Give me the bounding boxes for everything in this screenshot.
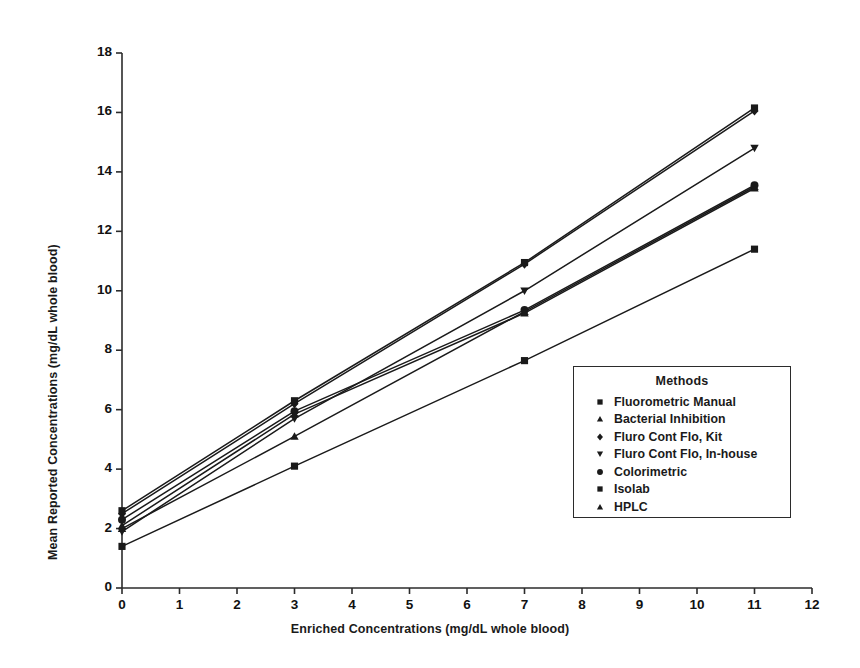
legend-item[interactable]: Colorimetric — [592, 463, 790, 481]
y-tick-label: 2 — [82, 520, 112, 535]
legend-item-label: HPLC — [614, 500, 648, 514]
marker-triangle-up — [597, 416, 603, 422]
x-tick-label: 7 — [510, 597, 540, 612]
y-tick-label: 8 — [82, 341, 112, 356]
legend-item-label: Fluorometric Manual — [614, 395, 736, 409]
marker-square — [597, 487, 602, 492]
legend-item-label: Bacterial Inhibition — [614, 412, 726, 426]
y-tick-label: 18 — [82, 44, 112, 59]
marker-triangle-up — [118, 521, 126, 529]
legend-marker-square-icon — [594, 483, 606, 495]
x-tick-label: 1 — [165, 597, 195, 612]
y-tick-label: 6 — [82, 401, 112, 416]
y-axis-title: Mean Reported Concentrations (mg/dL whol… — [46, 546, 60, 560]
marker-diamond — [597, 433, 603, 440]
plot-area — [0, 0, 860, 668]
legend-marker — [592, 413, 608, 425]
legend-item-label: Colorimetric — [614, 465, 687, 479]
legend-marker-triangle-up-icon — [594, 413, 606, 425]
marker-triangle-down — [118, 528, 126, 536]
x-tick-label: 9 — [625, 597, 655, 612]
x-axis-title: Enriched Concentrations (mg/dL whole blo… — [0, 622, 860, 636]
y-tick-label: 10 — [82, 282, 112, 297]
legend-marker-triangle-up-icon — [594, 501, 606, 513]
legend-marker — [592, 466, 608, 478]
y-tick-label: 12 — [82, 222, 112, 237]
x-tick-label: 3 — [280, 597, 310, 612]
marker-square — [118, 543, 125, 550]
x-tick-label: 11 — [740, 597, 770, 612]
y-tick-label: 4 — [82, 460, 112, 475]
marker-square — [521, 357, 528, 364]
legend-marker-square-icon — [594, 396, 606, 408]
legend-list: Fluorometric ManualBacterial InhibitionF… — [574, 393, 790, 516]
marker-triangle-up — [290, 432, 298, 440]
x-tick-label: 5 — [395, 597, 425, 612]
legend-item[interactable]: Fluorometric Manual — [592, 393, 790, 411]
marker-square — [751, 104, 758, 111]
x-tick-label: 2 — [222, 597, 252, 612]
marker-square — [118, 507, 125, 514]
marker-square — [751, 246, 758, 253]
legend-item-label: Isolab — [614, 482, 650, 496]
marker-triangle-up — [597, 504, 603, 510]
marker-square — [521, 259, 528, 266]
x-tick-label: 6 — [452, 597, 482, 612]
legend: Methods Fluorometric ManualBacterial Inh… — [573, 366, 791, 518]
legend-marker-diamond-icon — [594, 431, 606, 443]
marker-square — [291, 397, 298, 404]
legend-marker — [592, 396, 608, 408]
legend-item[interactable]: HPLC — [592, 498, 790, 516]
legend-item[interactable]: Bacterial Inhibition — [592, 411, 790, 429]
legend-marker — [592, 483, 608, 495]
legend-item[interactable]: Fluro Cont Flo, In-house — [592, 446, 790, 464]
legend-marker-circle-icon — [594, 466, 606, 478]
legend-item-label: Fluro Cont Flo, Kit — [614, 430, 722, 444]
chart-figure: 0246810121416180123456789101112 Enriched… — [0, 0, 860, 668]
legend-marker — [592, 501, 608, 513]
legend-item-label: Fluro Cont Flo, In-house — [614, 447, 757, 461]
y-tick-label: 16 — [82, 103, 112, 118]
marker-square — [291, 463, 298, 470]
x-tick-label: 0 — [107, 597, 137, 612]
x-tick-label: 4 — [337, 597, 367, 612]
legend-marker-triangle-down-icon — [594, 448, 606, 460]
marker-triangle-down — [750, 145, 758, 153]
y-tick-label: 0 — [82, 579, 112, 594]
legend-marker — [592, 431, 608, 443]
legend-title: Methods — [574, 374, 790, 388]
x-tick-label: 12 — [797, 597, 827, 612]
marker-square — [597, 399, 602, 404]
legend-item[interactable]: Isolab — [592, 481, 790, 499]
marker-circle — [597, 469, 603, 475]
legend-item[interactable]: Fluro Cont Flo, Kit — [592, 428, 790, 446]
y-tick-label: 14 — [82, 163, 112, 178]
x-tick-label: 10 — [682, 597, 712, 612]
x-tick-label: 8 — [567, 597, 597, 612]
marker-triangle-down — [597, 452, 603, 458]
marker-triangle-down — [520, 287, 528, 295]
legend-marker — [592, 448, 608, 460]
